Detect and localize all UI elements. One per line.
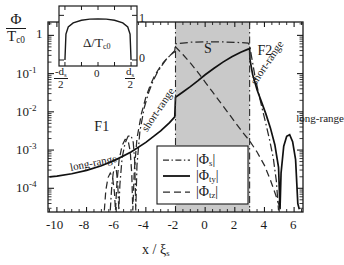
inset-y-axis-label: Δ/Tc0 [83,36,111,51]
inset-x-tick-label: 0 [94,68,100,79]
legend-label: |Φs| [196,153,215,168]
x-tick-label: -6 [108,218,119,231]
y-axis-label-denominator: Tc0 [6,29,26,46]
x-tick-label: 2 [231,218,238,231]
annotation-label: long-range [296,113,344,124]
y-axis-label-numerator: Φ [6,12,26,29]
y-tick-label: 10-4 [16,180,37,194]
region-label: F1 [94,120,109,134]
legend-label: |Φty| [196,169,219,184]
inset-ytick-1: 1 [139,12,145,24]
y-tick-label: 10-3 [16,142,37,156]
x-tick-label: 4 [260,218,267,231]
inset-ytick-0: 0 [139,52,145,64]
legend-label: |Φtz| [196,185,218,200]
x-tick-label: -10 [46,218,63,231]
inset-x-tick-label: -ds2 [54,66,68,90]
inset-x-tick-label: ds2 [125,66,135,90]
x-tick-label: -8 [79,218,90,231]
x-tick-label: -2 [168,218,179,231]
y-tick-label: 1 [36,27,43,40]
x-axis-label: x / ξs [142,243,170,258]
x-tick-label: 6 [290,218,297,231]
y-tick-label: 10-1 [16,66,37,80]
y-axis-label: Φ Tc0 [6,12,26,46]
x-tick-label: 0 [201,218,208,231]
y-tick-label: 10-2 [16,104,37,118]
region-label: S [204,42,212,56]
x-tick-label: -4 [138,218,149,231]
